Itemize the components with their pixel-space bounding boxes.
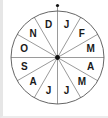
month-label-jul: J bbox=[46, 85, 52, 96]
month-label-aug: A bbox=[30, 76, 37, 87]
month-label-dec: D bbox=[45, 19, 52, 30]
month-label-may: M bbox=[78, 76, 86, 87]
month-wheel: J F M A M J J A S O N D bbox=[0, 0, 108, 118]
month-label-nov: N bbox=[30, 28, 37, 39]
month-label-jun: J bbox=[64, 85, 70, 96]
month-label-apr: A bbox=[87, 61, 94, 72]
month-label-feb: F bbox=[79, 28, 85, 39]
center-dot bbox=[55, 55, 60, 60]
month-label-mar: M bbox=[87, 43, 95, 54]
top-marker-dot bbox=[56, 4, 59, 7]
month-label-jan: J bbox=[64, 19, 70, 30]
month-label-sep: S bbox=[21, 61, 28, 72]
month-label-oct: O bbox=[20, 43, 28, 54]
